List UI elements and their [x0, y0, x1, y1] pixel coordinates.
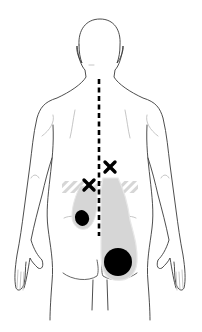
left-scapula-line [42, 115, 53, 136]
cross-icon-right [105, 162, 115, 172]
torso-right-side [147, 125, 153, 320]
head-left-outline [15, 45, 86, 290]
left-elbow [31, 175, 39, 178]
body-diagram-svg [0, 0, 202, 332]
torso-left-side [47, 125, 53, 320]
large-buttock-spot [104, 248, 132, 276]
right-scapula-line [147, 115, 158, 136]
right-inner-leg [107, 280, 108, 310]
right-shoulder-blade [125, 110, 130, 138]
left-shoulder-blade [70, 110, 75, 138]
left-fingers [17, 270, 24, 290]
left-buttock-curve [63, 260, 98, 280]
left-inner-leg [92, 280, 93, 310]
body-outline [15, 19, 185, 320]
right-fingers [176, 270, 183, 290]
right-elbow [161, 175, 169, 178]
body-diagram [0, 0, 202, 332]
